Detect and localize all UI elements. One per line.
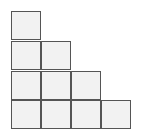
grid-cell: [71, 100, 101, 129]
grid-cell: [11, 41, 41, 70]
grid-cell: [41, 100, 71, 129]
grid-cell: [41, 71, 71, 100]
grid-cell: [11, 71, 41, 100]
grid-cell: [41, 41, 71, 70]
grid-cell: [11, 100, 41, 129]
grid-cell: [71, 71, 101, 100]
grid-cell: [11, 11, 41, 40]
grid-cell: [101, 100, 131, 129]
